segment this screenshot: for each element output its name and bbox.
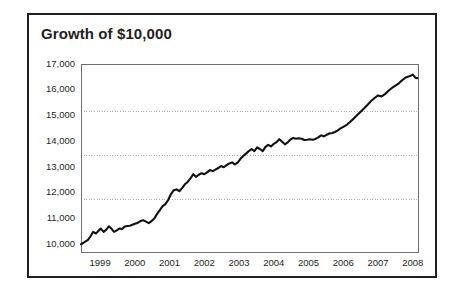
x-tick-label: 2006 bbox=[333, 257, 354, 268]
y-tick-label: 16,000 bbox=[46, 83, 75, 94]
y-axis-tick-labels: 17,00016,00015,00014,00013,00012,00011,0… bbox=[46, 58, 75, 249]
x-tick-label: 2002 bbox=[194, 257, 215, 268]
y-tick-label: 11,000 bbox=[47, 212, 75, 223]
y-tick-label: 12,000 bbox=[46, 186, 75, 197]
x-tick-label: 2000 bbox=[124, 257, 145, 268]
axis-lines bbox=[81, 64, 418, 252]
x-tick-label: 2003 bbox=[229, 257, 250, 268]
x-tick-label: 2001 bbox=[159, 257, 180, 268]
y-tick-label: 15,000 bbox=[46, 109, 75, 120]
x-tick-label: 2004 bbox=[263, 257, 284, 268]
y-tick-label: 14,000 bbox=[46, 135, 75, 146]
y-tick-label: 10,000 bbox=[46, 238, 75, 249]
y-tick-label: 13,000 bbox=[46, 161, 75, 172]
x-tick-label: 2005 bbox=[298, 257, 319, 268]
data-series bbox=[81, 75, 417, 245]
chart-card: Growth of $10,000 17,00016,00015,00014,0… bbox=[27, 13, 437, 278]
growth-line bbox=[81, 75, 417, 245]
plot-frame bbox=[81, 64, 418, 252]
gridlines bbox=[81, 112, 418, 200]
x-axis-tick-labels: 1999200020012002200320042005200620072008 bbox=[90, 257, 424, 268]
chart-plot-area: 17,00016,00015,00014,00013,00012,00011,0… bbox=[29, 15, 439, 280]
growth-line-chart: 17,00016,00015,00014,00013,00012,00011,0… bbox=[29, 15, 439, 280]
x-tick-label: 2008 bbox=[402, 257, 423, 268]
y-tick-label: 17,000 bbox=[46, 58, 75, 69]
x-tick-label: 2007 bbox=[367, 257, 388, 268]
x-tick-label: 1999 bbox=[90, 257, 111, 268]
